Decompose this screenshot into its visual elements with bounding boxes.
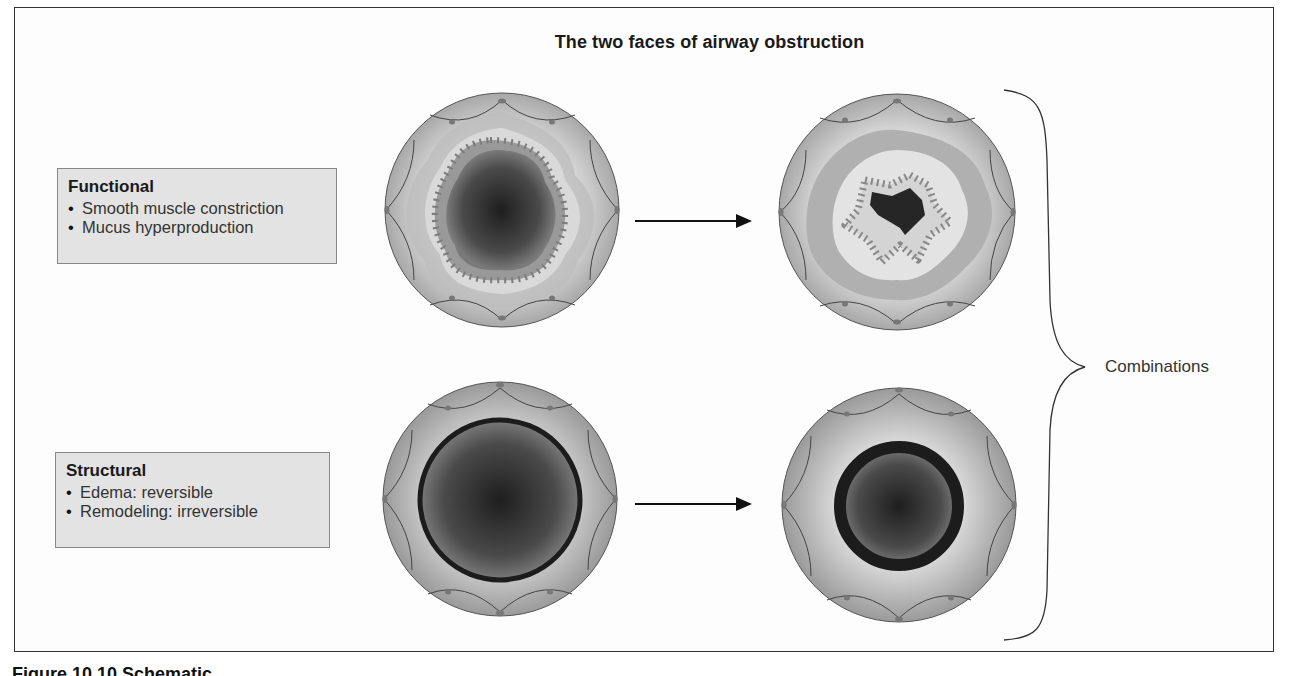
airway-structural-normal (383, 382, 618, 616)
functional-bullet-list: Smooth muscle constriction Mucus hyperpr… (68, 199, 326, 237)
structural-heading: Structural (66, 461, 319, 481)
structural-bullet: Edema: reversible (66, 483, 319, 502)
figure-caption: Figure 10.10 Schematic (12, 663, 212, 676)
curly-brace-icon (1004, 90, 1085, 640)
airway-functional-obstructed (779, 94, 1016, 330)
functional-bullet: Smooth muscle constriction (68, 199, 326, 218)
airway-structural-obstructed (782, 388, 1017, 623)
arrow-right-icon (635, 214, 752, 228)
structural-label-box: Structural Edema: reversible Remodeling:… (55, 452, 330, 548)
functional-bullet: Mucus hyperproduction (68, 218, 326, 237)
airway-functional-normal (385, 93, 620, 327)
diagram-artwork (0, 0, 1289, 676)
functional-heading: Functional (68, 177, 326, 197)
functional-label-box: Functional Smooth muscle constriction Mu… (57, 168, 337, 264)
combinations-label: Combinations (1105, 357, 1209, 377)
structural-bullet: Remodeling: irreversible (66, 502, 319, 521)
arrow-right-icon (635, 497, 752, 511)
structural-bullet-list: Edema: reversible Remodeling: irreversib… (66, 483, 319, 521)
